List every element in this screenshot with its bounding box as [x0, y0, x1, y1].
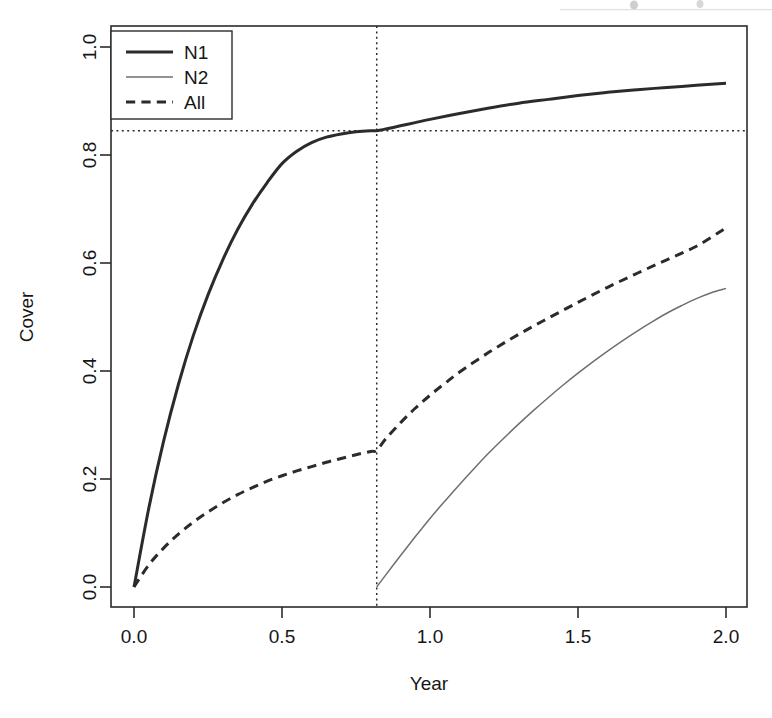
- x-axis-title: Year: [410, 673, 449, 694]
- x-tick-label: 1.5: [565, 626, 591, 647]
- x-tick-label: 0.5: [269, 626, 295, 647]
- legend-label-n1: N1: [184, 42, 208, 63]
- y-axis-title: Cover: [16, 291, 37, 342]
- y-tick-label: 0.6: [79, 250, 100, 276]
- chart-figure: 0.00.51.01.52.0 Year 0.00.20.40.60.81.0 …: [0, 0, 772, 718]
- legend-label-all: All: [184, 92, 205, 113]
- y-tick-label: 1.0: [79, 34, 100, 60]
- x-tick-label: 2.0: [713, 626, 739, 647]
- legend-label-n2: N2: [184, 67, 208, 88]
- chart-legend[interactable]: N1N2All: [111, 31, 232, 119]
- x-tick-label: 1.0: [417, 626, 443, 647]
- y-tick-label: 0.4: [79, 357, 100, 384]
- cover-vs-year-chart: 0.00.51.01.52.0 Year 0.00.20.40.60.81.0 …: [0, 0, 772, 718]
- y-tick-label: 0.0: [79, 574, 100, 600]
- x-tick-label: 0.0: [121, 626, 147, 647]
- y-tick-label: 0.2: [79, 466, 100, 492]
- y-tick-label: 0.8: [79, 142, 100, 168]
- legend-box: [111, 31, 232, 119]
